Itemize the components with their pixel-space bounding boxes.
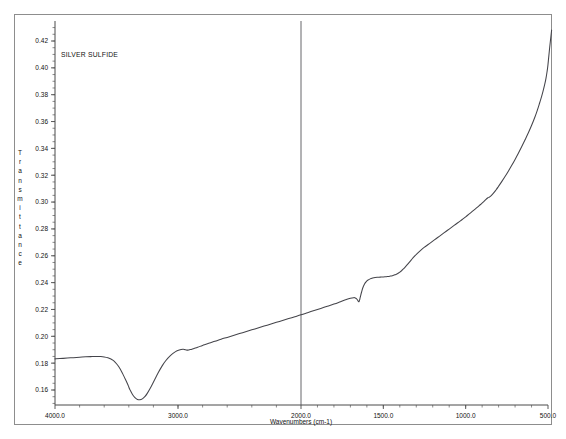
y-tick-label: 0.42 <box>35 37 48 44</box>
tick-marks-group <box>51 28 548 409</box>
spectrum-curve <box>55 30 552 400</box>
y-tick-label: 0.20 <box>35 333 48 340</box>
y-tick-label: 0.40 <box>35 64 48 71</box>
y-axis-title-letter: m <box>17 195 22 202</box>
y-axis-title-letter: r <box>19 158 22 165</box>
y-tick-label: 0.28 <box>35 225 48 232</box>
y-axis-title-letter: s <box>18 186 22 193</box>
y-axis-title-letter: i <box>19 204 20 211</box>
y-tick-label: 0.18 <box>35 360 48 367</box>
y-tick-label: 0.38 <box>35 91 48 98</box>
x-tick-label: 1000.0 <box>456 412 476 419</box>
y-tick-label: 0.36 <box>35 118 48 125</box>
y-axis-title-letter: a <box>18 167 22 174</box>
y-tick-label: 0.26 <box>35 252 48 259</box>
y-axis-title-letter: n <box>18 241 22 248</box>
y-axis-title-letter: T <box>18 149 22 156</box>
y-tick-label: 0.34 <box>35 145 48 152</box>
y-tick-label: 0.30 <box>35 198 48 205</box>
y-tick-label: 0.16 <box>35 386 48 393</box>
y-axis-title-letter: t <box>19 213 21 220</box>
spectrum-plot: 4000.03000.02000.01500.01000.0500.00.160… <box>0 0 566 439</box>
ftir-spectrum-figure: 4000.03000.02000.01500.01000.0500.00.160… <box>0 0 566 439</box>
y-tick-label: 0.22 <box>35 306 48 313</box>
y-axis-title: Transmittance <box>17 149 22 266</box>
y-axis-title-letter: a <box>18 232 22 239</box>
x-tick-label: 3000.0 <box>168 412 188 419</box>
series-title: SILVER SULFIDE <box>61 51 118 58</box>
tick-labels-group: 4000.03000.02000.01500.01000.0500.00.160… <box>35 37 556 419</box>
y-axis-title-letter: t <box>19 223 21 230</box>
y-axis-title-letter: e <box>18 259 22 266</box>
y-tick-label: 0.24 <box>35 279 48 286</box>
y-axis-title-letter: n <box>18 177 22 184</box>
y-axis-title-letter: c <box>18 250 22 257</box>
x-tick-label: 500.0 <box>540 412 557 419</box>
axis-lines-group <box>55 21 548 405</box>
x-tick-label: 1500.0 <box>373 412 393 419</box>
x-tick-label: 4000.0 <box>45 412 65 419</box>
y-tick-label: 0.32 <box>35 172 48 179</box>
x-axis-title: Wavenumbers (cm-1) <box>270 418 332 426</box>
